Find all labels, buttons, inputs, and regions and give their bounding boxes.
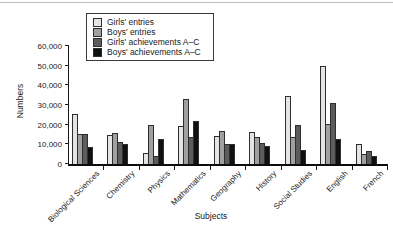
bar (193, 121, 199, 164)
x-axis-tick (352, 166, 353, 170)
y-axis-tick-label: 40,000 (38, 81, 62, 90)
y-axis-tick-label: 50,000 (38, 61, 62, 70)
bar-group-social-studies (282, 46, 317, 164)
x-axis-tick (281, 166, 282, 170)
x-category-label: English (325, 169, 350, 194)
bar-group-chemistry (104, 46, 139, 164)
bar (371, 156, 377, 164)
x-category-label: Biological Sciences (46, 169, 101, 224)
y-axis-tick-label: 0 (58, 160, 62, 169)
y-axis-tick-label: 30,000 (38, 101, 62, 110)
bar-group-geography (211, 46, 246, 164)
boys-achievements-swatch-icon (93, 48, 102, 57)
y-axis-tick-label: 20,000 (38, 120, 62, 129)
legend-label: Girls' entries (107, 17, 154, 27)
x-axis-title: Subjects (195, 211, 228, 221)
bar-group-physics (140, 46, 175, 164)
x-category-label: Physics (146, 169, 172, 195)
x-axis-tick (139, 166, 140, 170)
x-category-label: Chemistry (105, 169, 137, 201)
bar (264, 146, 270, 164)
bar (229, 144, 235, 164)
boys-entries-swatch-icon (93, 28, 102, 37)
legend-item-boys-achievements: Boys' achievements A–C (93, 47, 201, 57)
x-category-label: Mathematics (169, 169, 207, 207)
x-axis-tick (387, 166, 388, 170)
bar-group-english (317, 46, 352, 164)
y-axis-tick (65, 143, 69, 144)
y-axis-tick (65, 65, 69, 66)
bar-group-mathematics (175, 46, 210, 164)
bar (300, 150, 306, 164)
legend-label: Boys' entries (107, 27, 155, 37)
x-axis-tick (210, 166, 211, 170)
girls-entries-swatch-icon (93, 18, 102, 27)
x-axis-tick (245, 166, 246, 170)
y-axis-tick-label: 60,000 (38, 42, 62, 51)
x-axis-tick (103, 166, 104, 170)
x-category-label: History (255, 169, 279, 193)
y-axis-tick (65, 163, 69, 164)
chart-figure: Girls' entries Boys' entries Girls' achi… (0, 0, 393, 241)
page-top-rule (0, 2, 393, 3)
legend-label: Boys' achievements A–C (107, 47, 201, 57)
legend-label: Girls' achievements A–C (107, 37, 199, 47)
y-axis-tick (65, 124, 69, 125)
girls-achievements-swatch-icon (93, 38, 102, 47)
bar (158, 139, 164, 164)
y-axis-title: Numbers (15, 84, 25, 118)
bar-group-history (246, 46, 281, 164)
bar (87, 147, 93, 164)
y-axis-tick-label: 10,000 (38, 140, 62, 149)
legend-item-girls-entries: Girls' entries (93, 17, 201, 27)
y-axis-tick (65, 45, 69, 46)
bar (122, 144, 128, 164)
plot-area: 010,00020,00030,00040,00050,00060,000Bio… (68, 46, 388, 166)
y-axis-tick (65, 84, 69, 85)
legend: Girls' entries Boys' entries Girls' achi… (86, 13, 214, 61)
x-category-label: Geography (209, 169, 243, 203)
legend-item-boys-entries: Boys' entries (93, 27, 201, 37)
x-axis-tick (174, 166, 175, 170)
y-axis-tick (65, 104, 69, 105)
bar (335, 139, 341, 164)
x-category-label: French (361, 169, 385, 193)
legend-item-girls-achievements: Girls' achievements A–C (93, 37, 201, 47)
bar-group-french (353, 46, 388, 164)
bar-group-biological-sciences (69, 46, 104, 164)
x-axis-tick (316, 166, 317, 170)
